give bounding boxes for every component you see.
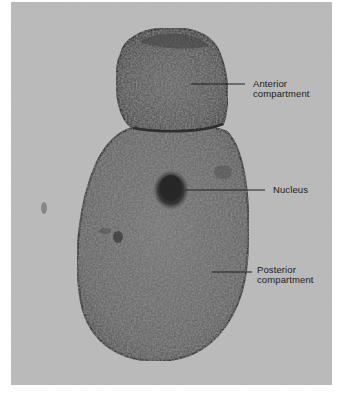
anterior-compartment (117, 28, 228, 131)
posterior-compartment (78, 125, 249, 361)
nucleus-label: Nucleus (273, 185, 308, 195)
nucleus (153, 170, 189, 210)
anterior-compartment-label: Anterior compartment (253, 79, 310, 99)
debris-particle (41, 202, 47, 214)
posterior-compartment-label: Posterior compartment (257, 265, 314, 285)
